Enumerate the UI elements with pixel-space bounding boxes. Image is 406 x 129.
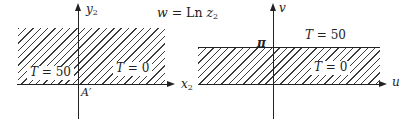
v-axis-label: v (279, 2, 286, 16)
t50-label-right: T = 50 (305, 29, 346, 43)
pi-tick-label: π (257, 37, 266, 51)
strip-top-boundary-line (198, 47, 380, 49)
v-axis (273, 9, 274, 119)
title-var-w: w (157, 5, 168, 20)
x2-axis (17, 84, 169, 85)
y2-axis-label: y2 (86, 3, 98, 17)
y2-label-base: y (86, 2, 93, 16)
t50-value: = 50 (38, 65, 71, 79)
u-axis (198, 84, 381, 85)
y2-axis (78, 9, 79, 119)
t0-var: T (116, 61, 124, 75)
x2-axis-arrow-icon (167, 81, 175, 87)
t50-var: T (305, 28, 313, 42)
y2-label-sub: 2 (93, 8, 98, 17)
t0-value: = 0 (124, 61, 149, 75)
x2-axis-label: x2 (181, 78, 193, 92)
origin-label-a-prime: A′ (81, 87, 91, 100)
t0-label-right: T = 0 (311, 61, 350, 75)
u-axis-arrow-icon (379, 81, 387, 87)
horizontal-strip-region (198, 48, 380, 84)
y2-axis-arrow-icon (75, 3, 81, 11)
u-axis-label: u (392, 76, 400, 90)
t50-label-left: T = 50 (27, 66, 74, 80)
x2-label-sub: 2 (188, 83, 193, 92)
title-subscript: 2 (213, 12, 218, 21)
x2-label-base: x (181, 77, 188, 91)
t50-value: = 50 (313, 28, 346, 42)
t50-var: T (30, 65, 38, 79)
v-axis-arrow-icon (270, 3, 276, 11)
ln-z2-mapping-figure: w = Ln z2 y2 x2 T = 50 T = 0 A′ (0, 0, 406, 129)
t0-label-left: T = 0 (113, 62, 152, 76)
t0-var: T (314, 60, 322, 74)
figure-title-equation: w = Ln z2 (157, 6, 218, 21)
title-equals-ln: = Ln (168, 5, 207, 20)
t0-value: = 0 (322, 60, 347, 74)
